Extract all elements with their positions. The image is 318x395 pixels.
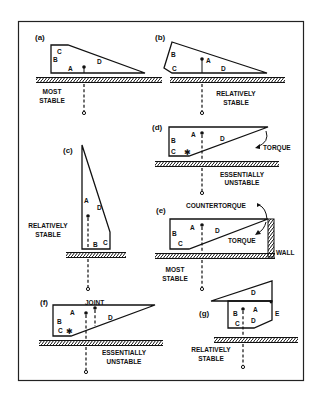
stability-caption-line2: STABLE xyxy=(198,355,224,362)
part-label-d-bottom: D xyxy=(251,317,256,324)
ground-hatch xyxy=(66,253,126,258)
ground-hatch xyxy=(36,78,162,83)
part-label-c: C xyxy=(172,65,177,72)
stability-caption-line1: RELATIVELY xyxy=(191,346,231,353)
center-of-mass-icon xyxy=(84,311,88,315)
plumb-bob-icon xyxy=(200,111,203,114)
stability-caption-line2: STABLE xyxy=(162,275,188,282)
joint-point-icon xyxy=(93,306,97,310)
hinge-point-icon xyxy=(270,301,273,304)
part-label-d-top: D xyxy=(251,289,256,296)
center-of-mass-icon xyxy=(86,214,90,218)
stability-caption-line1: ESSENTIALLY xyxy=(102,349,147,356)
stability-caption-line2: STABLE xyxy=(39,97,65,104)
countertorque-label: COUNTERTORQUE xyxy=(186,202,246,210)
center-of-mass-icon xyxy=(200,223,204,227)
center-of-mass-icon xyxy=(241,307,245,311)
part-label-d: D xyxy=(97,58,102,65)
stability-caption-line1: MOST xyxy=(166,266,185,273)
panel-label: (c) xyxy=(63,146,73,155)
part-label-d: D xyxy=(221,65,226,72)
plumb-bob-icon xyxy=(86,287,89,290)
stability-caption-line2: STABLE xyxy=(223,99,249,106)
ground-hatch xyxy=(155,254,275,259)
torque-label: TORQUE xyxy=(263,144,291,152)
panel-label: (d) xyxy=(152,123,163,132)
part-label-d: D xyxy=(108,314,113,321)
part-label-b: B xyxy=(233,310,238,317)
plumb-bob-icon xyxy=(84,370,87,373)
part-label-c: C xyxy=(171,148,176,155)
part-label-a: A xyxy=(70,309,75,316)
part-label-d: D xyxy=(215,227,220,234)
stability-caption-line1: MOST xyxy=(43,88,62,95)
part-label-b: B xyxy=(171,51,176,58)
stability-caption-line2: STABLE xyxy=(35,231,61,238)
part-label-c: C xyxy=(57,48,62,55)
panel-label: (e) xyxy=(156,206,166,215)
part-label-a: A xyxy=(253,306,258,313)
ground-hatch xyxy=(214,338,298,343)
part-label-a: A xyxy=(68,65,73,72)
ground-hatch xyxy=(170,78,285,83)
panel-label: (b) xyxy=(155,33,166,42)
ground-hatch xyxy=(155,162,279,167)
panel-label: (a) xyxy=(35,33,45,42)
pivot-star-icon: ✱ xyxy=(66,327,73,336)
pivot-star-icon: ✱ xyxy=(184,148,191,157)
part-label-a: A xyxy=(191,131,196,138)
part-label-a: A xyxy=(84,197,89,204)
wall-label: WALL xyxy=(276,249,294,256)
part-label-d: D xyxy=(97,204,102,211)
stability-caption-line1: RELATIVELY xyxy=(216,90,256,97)
plumb-bob-icon xyxy=(82,111,85,114)
stability-diagram: (a) C B A D MOST STABLE (b) B C A D xyxy=(0,0,318,395)
part-label-b: B xyxy=(172,230,177,237)
panel-label: (f) xyxy=(40,298,48,307)
part-label-d: D xyxy=(220,135,225,142)
part-label-e: E xyxy=(275,310,280,317)
stability-caption-line1: RELATIVELY xyxy=(28,222,68,229)
stability-caption-line2: UNSTABLE xyxy=(225,179,261,186)
part-label-b: B xyxy=(171,137,176,144)
part-label-c: C xyxy=(58,327,63,334)
part-label-a: A xyxy=(190,224,195,231)
wall-icon xyxy=(268,219,274,257)
plumb-bob-icon xyxy=(200,287,203,290)
plumb-bob-icon xyxy=(200,191,203,194)
panel-label: (g) xyxy=(199,309,210,318)
stability-caption-line1: ESSENTIALLY xyxy=(220,171,265,178)
part-label-b: B xyxy=(57,318,62,325)
part-label-b: B xyxy=(53,56,58,63)
center-of-mass-icon xyxy=(200,131,204,135)
part-label-b: B xyxy=(93,241,98,248)
part-label-c: C xyxy=(178,240,183,247)
plumb-bob-icon xyxy=(241,365,244,368)
part-label-c: C xyxy=(235,320,240,327)
part-label-c: C xyxy=(103,239,108,246)
ground-hatch xyxy=(39,341,163,346)
stability-caption-line2: UNSTABLE xyxy=(107,358,143,365)
torque-label: TORQUE xyxy=(228,237,256,245)
part-label-a: A xyxy=(206,57,211,64)
